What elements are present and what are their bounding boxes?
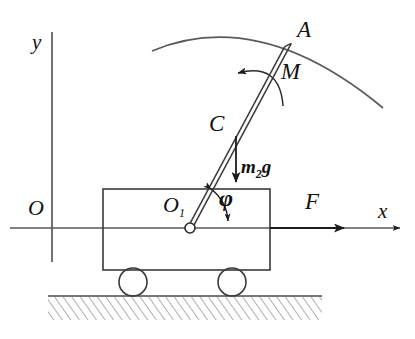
angle-label: φ bbox=[219, 186, 233, 210]
cart-wheel-left bbox=[119, 268, 147, 296]
axis-label-x: x bbox=[378, 201, 387, 222]
pendulum-rod bbox=[187, 43, 292, 229]
axis-label-y: y bbox=[32, 32, 41, 53]
pivot-hinge bbox=[185, 223, 195, 233]
force-label: F bbox=[305, 190, 319, 213]
pivot-label: O1 bbox=[163, 194, 185, 219]
trajectory-arc bbox=[152, 37, 383, 108]
ground-hatching bbox=[48, 296, 322, 320]
point-label-a: A bbox=[297, 18, 311, 41]
pivot-label-subscript: 1 bbox=[179, 206, 185, 220]
weight-label: m2g bbox=[241, 157, 271, 180]
diagram-canvas bbox=[0, 0, 415, 339]
origin-label: O bbox=[28, 197, 44, 219]
weight-label-gravity: g bbox=[262, 156, 272, 177]
weight-label-mass: m bbox=[241, 156, 256, 177]
moment-label: M bbox=[281, 60, 300, 83]
cart-wheel-right bbox=[218, 268, 246, 296]
pivot-label-main: O bbox=[163, 192, 179, 217]
physics-diagram: y O x A M C F φ O1 m2g bbox=[0, 0, 415, 339]
point-label-c: C bbox=[209, 112, 224, 135]
